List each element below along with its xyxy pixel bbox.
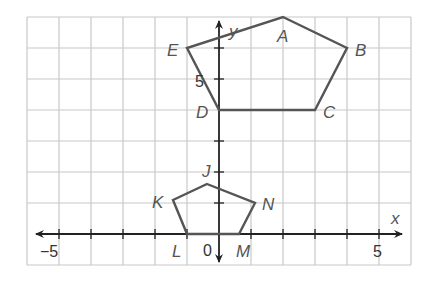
tick-label-x-neg5: −5 [40, 243, 58, 260]
vertex-label-M: M [236, 242, 251, 261]
vertex-label-K: K [152, 193, 164, 212]
x-axis-label: x [390, 209, 400, 228]
vertex-label-A: A [276, 27, 288, 46]
y-axis-label: y [228, 22, 239, 41]
vertex-label-D: D [196, 103, 208, 122]
tick-label-x-5: 5 [373, 243, 382, 260]
vertex-label-C: C [323, 103, 336, 122]
vertex-label-L: L [172, 242, 181, 261]
vertex-label-N: N [262, 195, 275, 214]
pentagon-JKLMN [173, 184, 255, 234]
vertex-label-B: B [355, 41, 366, 60]
vertex-label-E: E [167, 41, 179, 60]
pentagon-ABCDE [187, 17, 347, 110]
origin-label: 0 [203, 242, 212, 259]
tick-label-y-5: 5 [195, 73, 204, 90]
vertex-label-J: J [201, 162, 211, 181]
coordinate-plane: y x −5 5 5 0 A B C D E J K L M N [0, 0, 437, 283]
